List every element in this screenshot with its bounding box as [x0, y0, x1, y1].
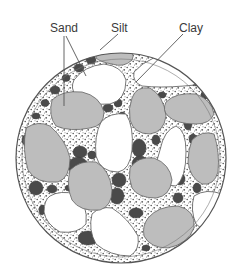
clay-matrix: [16, 40, 226, 263]
silt-label: Silt: [111, 22, 128, 34]
soil-particle-illustration: [0, 0, 242, 265]
soil-texture-diagram: Sand Silt Clay: [0, 0, 242, 265]
silt-leader-line: [100, 34, 118, 50]
sand-label: Sand: [50, 22, 78, 34]
clay-label: Clay: [179, 22, 203, 34]
